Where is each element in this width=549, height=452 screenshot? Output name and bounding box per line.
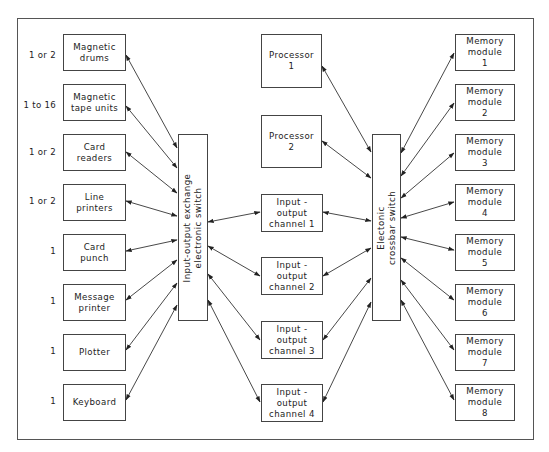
- memory-module-2: Memory module 2: [455, 84, 515, 121]
- io-channel-2: Input - output channel 2: [261, 257, 323, 295]
- memory-module-1: Memory module 1: [455, 34, 515, 71]
- device-quantity: 1: [16, 396, 56, 406]
- memory-module-3: Memory module 3: [455, 134, 515, 171]
- device-card-punch: Card punch: [63, 234, 126, 271]
- device-card-readers: Card readers: [63, 134, 126, 171]
- device-line-printers: Line printers: [63, 184, 126, 221]
- device-quantity: 1 or 2: [16, 50, 56, 60]
- memory-module-8: Memory module 8: [455, 384, 515, 421]
- io-exchange-switch: Input-output exchange electronic switch: [178, 134, 208, 321]
- io-exchange-switch-label: Input-output exchange electronic switch: [182, 133, 204, 323]
- memory-module-6: Memory module 6: [455, 284, 515, 321]
- io-channel-4: Input - output channel 4: [261, 384, 323, 422]
- device-plotter: Plotter: [63, 334, 126, 371]
- device-quantity: 1 to 16: [16, 100, 56, 110]
- device-quantity: 1: [16, 346, 56, 356]
- memory-module-7: Memory module 7: [455, 334, 515, 371]
- device-magnetic-tape-units: Magnetic tape units: [63, 84, 126, 121]
- io-channel-3: Input - output channel 3: [261, 321, 323, 359]
- device-magnetic-drums: Magnetic drums: [63, 34, 126, 71]
- device-quantity: 1: [16, 246, 56, 256]
- crossbar-switch: Electonic crossbar switch: [372, 134, 401, 321]
- memory-module-4: Memory module 4: [455, 184, 515, 221]
- processor-1: Processor 1: [261, 34, 322, 88]
- processor-2: Processor 2: [261, 115, 322, 168]
- memory-module-5: Memory module 5: [455, 234, 515, 271]
- device-quantity: 1: [16, 296, 56, 306]
- device-message-printer: Message printer: [63, 284, 126, 321]
- crossbar-switch-label: Electonic crossbar switch: [376, 133, 398, 323]
- device-quantity: 1 or 2: [16, 196, 56, 206]
- device-quantity: 1 or 2: [16, 147, 56, 157]
- device-keyboard: Keyboard: [63, 384, 126, 421]
- io-channel-1: Input - output channel 1: [261, 194, 323, 232]
